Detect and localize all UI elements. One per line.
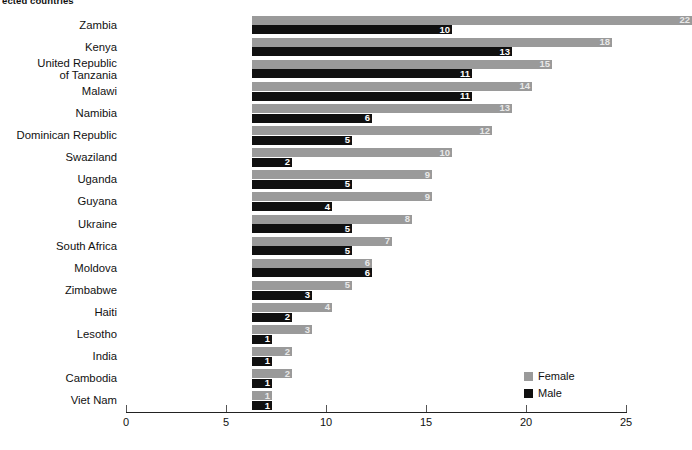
bar-female: 2 <box>252 369 292 378</box>
bar-value-label: 6 <box>365 113 370 123</box>
bar-male: 1 <box>252 379 272 388</box>
bar-female: 14 <box>252 82 532 91</box>
bar-male: 11 <box>252 69 472 78</box>
bar-value-label: 4 <box>325 202 330 212</box>
bar-male: 4 <box>252 202 332 211</box>
bar-value-label: 1 <box>265 378 270 388</box>
category-label: Uganda <box>0 173 117 185</box>
bar-group: 94 <box>252 191 626 213</box>
chart-row: Moldova66 <box>126 257 626 279</box>
bar-value-label: 10 <box>439 148 450 158</box>
bar-value-label: 13 <box>499 47 510 57</box>
bar-male: 2 <box>252 158 292 167</box>
bar-group: 66 <box>252 257 626 279</box>
legend-label: Male <box>538 388 562 399</box>
chart-row: Kenya1813 <box>126 36 626 58</box>
bar-value-label: 15 <box>539 59 550 69</box>
bar-group: 1511 <box>252 58 626 80</box>
bar-value-label: 22 <box>679 15 690 25</box>
bar-group: 2210 <box>252 14 626 36</box>
x-axis-line <box>126 412 627 413</box>
chart-row: Ukraine85 <box>126 213 626 235</box>
bar-value-label: 4 <box>325 302 330 312</box>
bar-male: 3 <box>252 291 312 300</box>
plot-area: Zambia2210Kenya1813United Republic of Ta… <box>126 14 626 412</box>
chart-title: ected countries <box>2 0 74 7</box>
bar-value-label: 3 <box>305 325 310 335</box>
x-axis-tick <box>426 405 427 412</box>
bar-female: 6 <box>252 259 372 268</box>
bar-value-label: 7 <box>385 236 390 246</box>
bar-value-label: 14 <box>519 81 530 91</box>
bar-female: 15 <box>252 60 552 69</box>
bar-female: 18 <box>252 38 612 47</box>
bar-value-label: 11 <box>460 69 470 79</box>
chart-row: Dominican Republic125 <box>126 125 626 147</box>
bar-male: 5 <box>252 224 352 233</box>
bar-male: 5 <box>252 246 352 255</box>
category-label: Zambia <box>0 19 117 31</box>
category-label: Kenya <box>0 41 117 53</box>
bar-value-label: 18 <box>599 37 610 47</box>
chart-row: South Africa75 <box>126 235 626 257</box>
x-axis-tick <box>226 405 227 412</box>
bar-value-label: 1 <box>265 356 270 366</box>
bar-male: 2 <box>252 313 292 322</box>
bar-value-label: 1 <box>265 401 270 411</box>
chart-row: United Republic of Tanzania1511 <box>126 58 626 80</box>
bar-value-label: 2 <box>285 347 290 357</box>
bar-value-label: 2 <box>285 369 290 379</box>
bar-female: 5 <box>252 281 352 290</box>
category-label: Moldova <box>0 262 117 274</box>
legend-swatch-icon <box>524 389 533 398</box>
bar-value-label: 13 <box>499 103 510 113</box>
bar-value-label: 8 <box>405 214 410 224</box>
bar-value-label: 2 <box>285 157 290 167</box>
bar-female: 7 <box>252 237 392 246</box>
x-axis-tick-label: 10 <box>306 416 346 428</box>
x-axis-tick-label: 20 <box>506 416 546 428</box>
x-axis-tick <box>326 405 327 412</box>
bar-female: 2 <box>252 347 292 356</box>
x-axis-tick <box>526 405 527 412</box>
bar-value-label: 5 <box>345 224 350 234</box>
legend-label: Female <box>538 371 575 382</box>
bar-female: 22 <box>252 16 692 25</box>
category-label: Lesotho <box>0 328 117 340</box>
chart-row: India21 <box>126 346 626 368</box>
x-axis-tick <box>626 405 627 412</box>
chart-row: Swaziland102 <box>126 147 626 169</box>
bar-female: 8 <box>252 215 412 224</box>
x-axis-tick-label: 5 <box>206 416 246 428</box>
category-label: Cambodia <box>0 372 117 384</box>
x-axis-tick <box>126 405 127 412</box>
category-label: Guyana <box>0 195 117 207</box>
bar-female: 9 <box>252 192 432 201</box>
bar-male: 1 <box>252 401 272 410</box>
bar-female: 12 <box>252 126 492 135</box>
category-label: United Republic of Tanzania <box>0 57 117 81</box>
x-axis-tick-label: 0 <box>106 416 146 428</box>
legend-item-male: Male <box>524 386 575 401</box>
bar-male: 11 <box>252 92 472 101</box>
chart-row: Malawi1411 <box>126 80 626 102</box>
legend-item-female: Female <box>524 369 575 384</box>
bar-male: 1 <box>252 357 272 366</box>
bar-value-label: 6 <box>365 268 370 278</box>
bar-group: 1411 <box>252 80 626 102</box>
bar-value-label: 5 <box>345 280 350 290</box>
bar-value-label: 3 <box>305 290 310 300</box>
chart-row: Namibia136 <box>126 102 626 124</box>
chart-row: Zimbabwe53 <box>126 279 626 301</box>
bar-group: 1813 <box>252 36 626 58</box>
bar-group: 136 <box>252 102 626 124</box>
chart-row: Lesotho31 <box>126 324 626 346</box>
category-label: Namibia <box>0 107 117 119</box>
bar-value-label: 5 <box>345 179 350 189</box>
bar-female: 10 <box>252 148 452 157</box>
bar-group: 42 <box>252 301 626 323</box>
bar-group: 75 <box>252 235 626 257</box>
bar-value-label: 9 <box>425 170 430 180</box>
legend-swatch-icon <box>524 372 533 381</box>
